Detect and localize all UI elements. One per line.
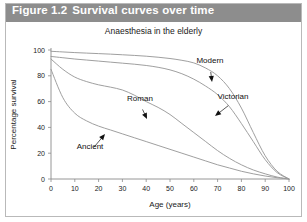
x-tick-label: 70	[214, 185, 222, 192]
y-axis-title: Percentage survival	[9, 79, 18, 149]
x-tick-label: 30	[119, 185, 127, 192]
y-tick-label: 60	[37, 98, 45, 105]
y-tick-label: 40	[37, 124, 45, 131]
series-line-victorian	[51, 56, 289, 179]
x-tick-label: 100	[283, 185, 295, 192]
x-tick-label: 80	[238, 185, 246, 192]
annotation-label-modern: Modern	[196, 56, 223, 65]
annotation-label-ancient: Ancient	[77, 142, 104, 151]
x-tick-label: 10	[71, 185, 79, 192]
series-line-roman	[51, 59, 289, 179]
series-line-ancient	[51, 69, 289, 179]
x-tick-label: 40	[142, 185, 150, 192]
y-tick-label: 100	[33, 47, 45, 54]
annotation-arrowhead-ancient	[99, 134, 105, 140]
y-tick-label: 80	[37, 72, 45, 79]
annotation-arrowhead-victorian	[215, 110, 221, 116]
annotation-arrowhead-modern	[209, 76, 214, 82]
y-tick-label: 0	[41, 176, 45, 183]
annotation-leader-victorian	[219, 106, 228, 113]
x-tick-label: 50	[166, 185, 174, 192]
x-tick-label: 60	[190, 185, 198, 192]
survival-curves-chart: 0102030405060708090100020406080100Age (y…	[0, 0, 307, 222]
figure-container: Figure 1.2Survival curves over time Anae…	[0, 0, 307, 222]
y-tick-label: 20	[37, 150, 45, 157]
x-tick-label: 20	[95, 185, 103, 192]
x-tick-label: 90	[261, 185, 269, 192]
annotation-label-roman: Roman	[127, 94, 153, 103]
chart-series	[51, 51, 289, 179]
chart-annotations: ModernVictorianRomanAncient	[77, 56, 249, 151]
x-axis-title: Age (years)	[149, 200, 191, 209]
series-line-modern	[51, 51, 289, 179]
annotation-label-victorian: Victorian	[218, 92, 249, 101]
x-tick-label: 0	[49, 185, 53, 192]
